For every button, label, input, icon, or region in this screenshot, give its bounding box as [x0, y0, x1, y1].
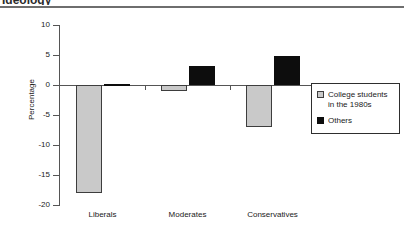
legend-item-others: Others	[317, 116, 352, 126]
legend: College students in the 1980s Others	[311, 83, 400, 134]
y-axis-tick	[53, 85, 60, 86]
y-axis-tick-label: 10	[0, 21, 50, 29]
y-axis-tick	[53, 205, 60, 206]
x-axis-tick	[230, 85, 231, 90]
y-axis-tick	[53, 55, 60, 56]
y-axis-tick-label: -20	[0, 201, 50, 209]
y-axis-tick	[53, 115, 60, 116]
header-divider	[0, 6, 404, 8]
bar	[189, 66, 215, 85]
bar	[246, 85, 272, 127]
y-axis-tick-label: -15	[0, 171, 50, 179]
bar	[274, 56, 300, 85]
y-axis-title: Percentage	[27, 60, 36, 140]
y-axis-tick	[53, 25, 60, 26]
legend-swatch-icon	[317, 117, 324, 124]
legend-swatch-icon	[317, 91, 324, 98]
x-axis-category-label: Conservatives	[228, 210, 318, 219]
y-axis-tick	[53, 145, 60, 146]
y-axis-tick	[53, 175, 60, 176]
y-axis-tick-label: -10	[0, 141, 50, 149]
x-axis-category-label: Moderates	[143, 210, 233, 219]
legend-label: Others	[328, 116, 352, 126]
x-axis-category-label: Liberals	[58, 210, 148, 219]
y-axis-tick-label: -5	[0, 111, 50, 119]
page-heading-cutoff: Ideology	[2, 0, 51, 5]
bar	[76, 85, 102, 193]
figure-root: Ideology Percentage 1050-5-10-15-20 Libe…	[0, 0, 404, 238]
y-axis-tick-label: 5	[0, 51, 50, 59]
y-axis-tick-label: 0	[0, 81, 50, 89]
legend-item-college-students: College students in the 1980s	[317, 90, 388, 110]
legend-label: College students in the 1980s	[328, 90, 388, 110]
bar	[104, 84, 130, 86]
bar	[161, 85, 187, 91]
x-axis-tick	[145, 85, 146, 90]
